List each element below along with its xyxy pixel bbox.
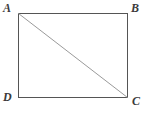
geometry-figure: A B C D xyxy=(0,0,149,115)
figure-canvas xyxy=(0,0,149,115)
vertex-label-a: A xyxy=(3,2,11,14)
vertex-label-d: D xyxy=(3,91,12,103)
vertex-label-c: C xyxy=(132,95,140,107)
vertex-label-b: B xyxy=(131,2,139,14)
diagonal-ac xyxy=(19,14,128,98)
